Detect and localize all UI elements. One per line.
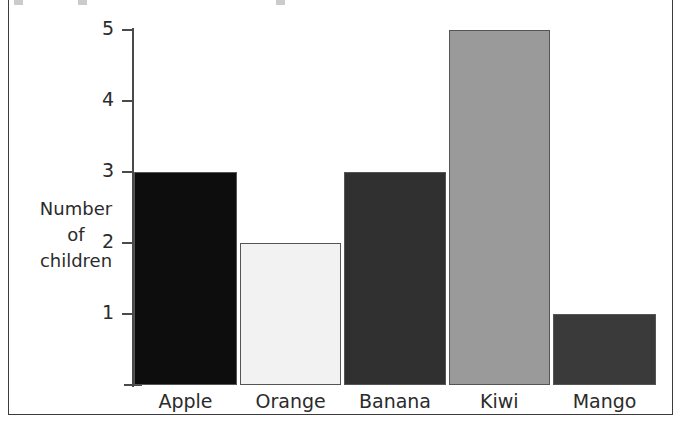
bar-apple[interactable] (134, 172, 237, 385)
bar-kiwi[interactable] (449, 30, 550, 385)
y-axis-tick-label: 3 (78, 159, 114, 181)
x-axis-label-apple: Apple (134, 390, 237, 412)
y-axis-title: Number of children (24, 196, 128, 274)
bar-orange[interactable] (240, 243, 341, 385)
y-axis-title-line-1: Number (24, 196, 128, 222)
x-axis-label-orange: Orange (240, 390, 341, 412)
x-axis-label-kiwi: Kiwi (449, 390, 550, 412)
x-axis-label-mango: Mango (553, 390, 656, 412)
y-axis-title-line-2: of (24, 222, 128, 248)
y-axis-tick-mark (122, 100, 133, 102)
y-axis-tick-label-text: 4 (78, 88, 114, 110)
y-axis-tick-label-text: 3 (78, 159, 114, 181)
y-axis-tick-label-text: 1 (78, 301, 114, 323)
y-axis-tick-mark (122, 29, 133, 31)
bar-mango[interactable] (553, 314, 656, 385)
y-axis-tick-label: 5 (78, 17, 114, 39)
y-axis-title-line-3: children (24, 248, 128, 274)
x-axis-label-banana: Banana (344, 390, 445, 412)
chart-page: 12345 Number of children AppleOrangeBana… (0, 0, 683, 430)
y-axis-tick-mark (122, 171, 133, 173)
y-axis-tick-mark (122, 313, 133, 315)
bar-chart: 12345 Number of children AppleOrangeBana… (0, 0, 683, 430)
bar-banana[interactable] (344, 172, 445, 385)
y-axis-tick-label: 1 (78, 301, 114, 323)
y-axis-tick-label-text: 5 (78, 17, 114, 39)
y-axis-tick-label: 4 (78, 88, 114, 110)
